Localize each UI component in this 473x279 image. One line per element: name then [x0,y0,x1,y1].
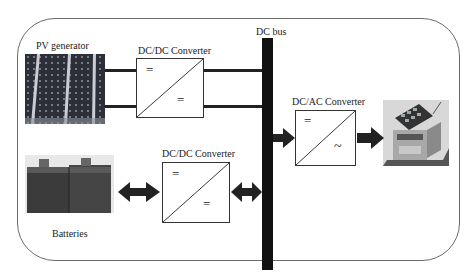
arrows-overlay [0,0,473,279]
arrow-bus-to-dcac [273,128,295,148]
arrow-dcac-to-house [357,127,384,149]
bidirectional-arrow-batteries-dcdc [118,182,160,202]
bidirectional-arrow-dcdc-bus [231,182,262,202]
